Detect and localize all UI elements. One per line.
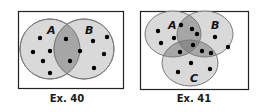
venn-diagram-ex41: A B C Ex. 41 (129, 0, 259, 112)
set-b-label: B (85, 24, 93, 37)
venn-diagram-ex40: A B Ex. 40 (0, 0, 130, 112)
caption-ex40: Ex. 40 (37, 93, 97, 104)
set-c-label: C (190, 72, 198, 85)
set-a-label: A (167, 19, 177, 32)
set-b-label: B (211, 19, 219, 32)
set-a-label: A (46, 24, 56, 37)
caption-ex41: Ex. 41 (164, 93, 224, 104)
